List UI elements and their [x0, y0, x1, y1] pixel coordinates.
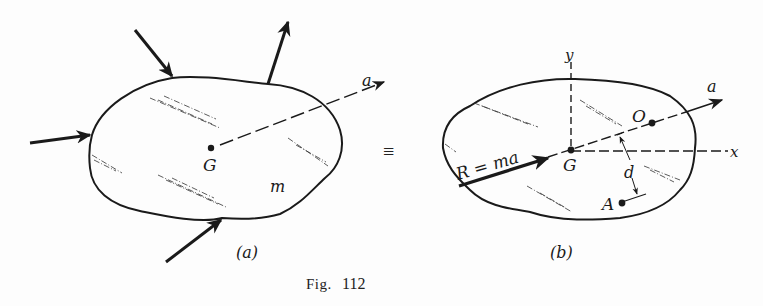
panel-a: G m a (a) — [30, 22, 384, 262]
caption-prefix: Fig. — [306, 276, 332, 292]
mass-label: m — [270, 177, 285, 196]
panel-b: y x a R = ma G O d A (b) — [443, 46, 739, 262]
x-axis-label: x — [730, 143, 739, 161]
centroid-label-a: G — [203, 155, 217, 175]
panel-label-b: (b) — [550, 243, 573, 262]
acceleration-arrow-b — [686, 100, 722, 112]
force-arrow-bottom — [166, 220, 221, 262]
acceleration-label-b: a — [707, 77, 717, 96]
y-axis-label: y — [564, 46, 574, 64]
point-a-dot — [619, 200, 626, 207]
force-arrow-top-right — [268, 22, 288, 84]
panel-label-a: (a) — [236, 243, 258, 262]
hatching-a — [92, 96, 328, 207]
figure-112: G m a (a) ≡ y x a R = ma — [0, 0, 763, 306]
caption-number: 112 — [342, 275, 365, 292]
centroid-label-b: G — [563, 155, 577, 175]
centroid-dot-b — [568, 147, 575, 154]
equivalence-symbol: ≡ — [383, 140, 394, 162]
point-o-label: O — [632, 106, 646, 126]
centroid-dot-a — [208, 145, 214, 151]
rigid-body-outline-a — [89, 77, 342, 220]
force-arrow-top-left — [135, 30, 172, 76]
distance-d-arrow-up — [620, 137, 630, 160]
acceleration-label-a: a — [362, 71, 372, 90]
distance-d-tick — [622, 194, 646, 202]
diagram-canvas: G m a (a) ≡ y x a R = ma — [0, 0, 763, 306]
distance-label: d — [624, 163, 634, 182]
point-o-dot — [649, 120, 656, 127]
figure-caption: Fig. 112 — [306, 275, 365, 292]
point-a-label: A — [600, 194, 614, 214]
force-arrow-left — [30, 135, 90, 143]
